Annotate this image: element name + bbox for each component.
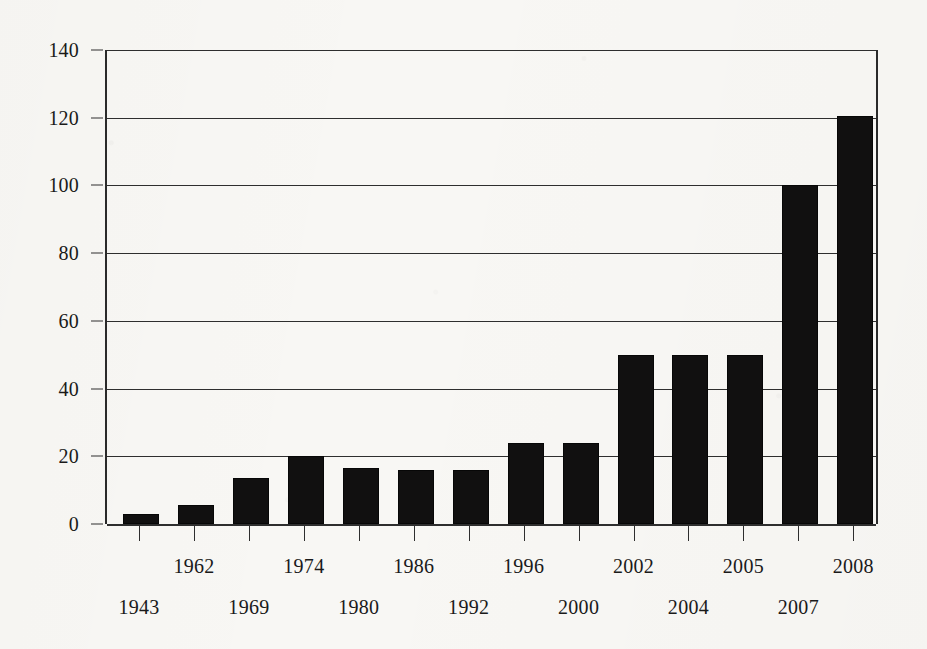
x-axis-tick-label: 2002 (613, 556, 654, 576)
y-axis-tick-mark (91, 253, 103, 254)
y-axis-tick-mark (91, 185, 103, 186)
y-axis-tick-label: 20 (59, 446, 79, 466)
x-axis-tick-label: 1992 (448, 597, 489, 617)
y-axis-tick-label: 120 (48, 108, 79, 128)
x-axis-tick-label: 1943 (118, 597, 159, 617)
bar (782, 185, 818, 524)
x-axis-tick-mark (634, 524, 635, 541)
bar (398, 470, 434, 524)
y-axis-tick-label: 80 (59, 243, 79, 263)
y-axis-tick-mark (91, 320, 103, 321)
bar (727, 355, 763, 524)
x-axis-tick-mark (743, 524, 744, 541)
bar (672, 355, 708, 524)
x-axis-tick-label: 1980 (338, 597, 379, 617)
bar (178, 505, 214, 524)
plot-area (105, 50, 878, 524)
x-axis-tick-mark (579, 524, 580, 541)
x-axis-tick-mark (304, 524, 305, 541)
gridline-60 (107, 321, 876, 322)
y-axis-tick-mark (91, 524, 103, 525)
bar (618, 355, 654, 524)
x-axis-tick-label: 2004 (668, 597, 709, 617)
y-axis-tick-mark (91, 50, 103, 51)
x-axis-tick-label: 2005 (723, 556, 764, 576)
x-axis-tick-label: 1962 (173, 556, 214, 576)
gridline-80 (107, 253, 876, 254)
x-axis-tick-mark (194, 524, 195, 541)
gridline-140 (107, 50, 876, 51)
bar (837, 116, 873, 524)
y-axis-tick-label: 100 (48, 175, 79, 195)
x-axis-tick-mark (249, 524, 250, 541)
bar-chart: 020406080100120140 194319621969197419801… (0, 0, 927, 649)
x-axis-tick-mark (853, 524, 854, 541)
y-axis-tick-label: 0 (69, 514, 79, 534)
x-axis-tick-label: 1969 (228, 597, 269, 617)
bar (288, 456, 324, 524)
x-axis-tick-label: 1986 (393, 556, 434, 576)
x-axis-tick-mark (524, 524, 525, 541)
y-axis-tick-label: 40 (59, 379, 79, 399)
x-axis-tick-mark (688, 524, 689, 541)
bar (508, 443, 544, 524)
gridline-120 (107, 118, 876, 119)
y-axis-tick-mark (91, 456, 103, 457)
x-axis-tick-label: 1974 (283, 556, 324, 576)
bar (233, 478, 269, 524)
x-axis-tick-label: 2000 (558, 597, 599, 617)
y-axis-tick-label: 60 (59, 311, 79, 331)
y-axis-tick-mark (91, 388, 103, 389)
y-axis-tick-label: 140 (48, 40, 79, 60)
x-axis-tick-mark (414, 524, 415, 541)
x-axis-tick-mark (139, 524, 140, 541)
x-axis-tick-label: 2008 (833, 556, 874, 576)
x-axis-tick-label: 2007 (778, 597, 819, 617)
bar (453, 470, 489, 524)
x-axis-tick-mark (469, 524, 470, 541)
bar (563, 443, 599, 524)
x-axis-tick-mark (359, 524, 360, 541)
x-axis-tick-label: 1996 (503, 556, 544, 576)
x-axis-tick-mark (798, 524, 799, 541)
bar (123, 514, 159, 524)
bar (343, 468, 379, 524)
gridline-0 (107, 524, 876, 526)
gridline-100 (107, 185, 876, 186)
y-axis-tick-mark (91, 117, 103, 118)
